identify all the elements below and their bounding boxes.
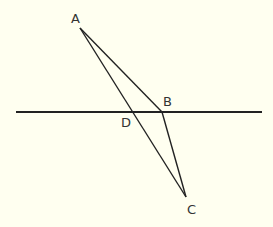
label-a: A bbox=[71, 11, 80, 26]
label-b: B bbox=[163, 94, 172, 109]
label-d: D bbox=[121, 115, 131, 130]
segment-bc bbox=[162, 112, 186, 197]
segment-ab bbox=[80, 28, 162, 112]
geometry-diagram: A B D C bbox=[0, 0, 273, 227]
label-c: C bbox=[187, 202, 196, 217]
